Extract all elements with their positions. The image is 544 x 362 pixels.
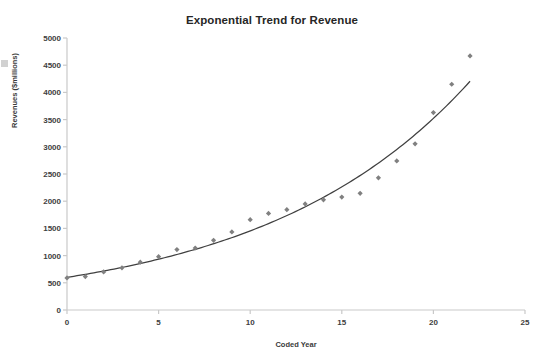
data-point [229, 229, 234, 234]
y-tick-label: 1000 [31, 251, 61, 260]
data-point [284, 207, 289, 212]
data-point [376, 175, 381, 180]
trendline-series [67, 81, 470, 277]
y-tick-label: 1500 [31, 224, 61, 233]
y-axis-title: Revenues ($millions) [10, 8, 19, 128]
chart-title: Exponential Trend for Revenue [0, 14, 544, 26]
x-tick-label: 15 [329, 318, 355, 327]
x-tick-label: 20 [420, 318, 446, 327]
x-tick-label: 5 [146, 318, 172, 327]
data-point [431, 110, 436, 115]
y-tick-label: 500 [31, 278, 61, 287]
y-tick-label: 3000 [31, 142, 61, 151]
y-tick-label: 4500 [31, 61, 61, 70]
data-point [467, 53, 472, 58]
y-tick-label: 2000 [31, 197, 61, 206]
y-axis-tick-labels: 0500100015002000250030003500400045005000 [28, 0, 61, 362]
plot-area [0, 0, 544, 362]
data-point [339, 195, 344, 200]
y-tick-label: 4000 [31, 88, 61, 97]
y-tick-label: 0 [31, 306, 61, 315]
data-point [119, 265, 124, 270]
x-axis-title: Coded Year [67, 340, 525, 349]
data-point [248, 217, 253, 222]
data-point [449, 82, 454, 87]
x-tick-label: 0 [54, 318, 80, 327]
data-point [174, 247, 179, 252]
data-point [358, 191, 363, 196]
data-point [394, 158, 399, 163]
data-point [266, 211, 271, 216]
x-tick-label: 25 [512, 318, 538, 327]
axis-lines [63, 38, 525, 314]
y-tick-label: 3500 [31, 115, 61, 124]
x-tick-label: 10 [237, 318, 263, 327]
edge-artifact [1, 60, 8, 67]
data-point [211, 238, 216, 243]
data-point [412, 141, 417, 146]
y-tick-label: 2500 [31, 170, 61, 179]
data-point [64, 275, 69, 280]
exponential-trend-chart: Exponential Trend for Revenue Revenues (… [0, 0, 544, 362]
scatter-series [64, 53, 472, 280]
y-tick-label: 5000 [31, 34, 61, 43]
